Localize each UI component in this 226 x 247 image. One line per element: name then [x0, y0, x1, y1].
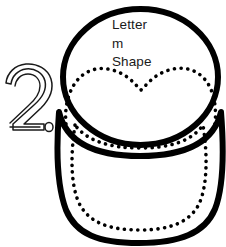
worksheet-canvas: Letter m Shape: [0, 0, 226, 247]
head-shape-group: [63, 9, 218, 145]
head-ellipse: [63, 9, 218, 145]
step-number-period: [45, 122, 53, 131]
template-artwork: [0, 0, 226, 247]
step-number-2: [6, 64, 53, 132]
